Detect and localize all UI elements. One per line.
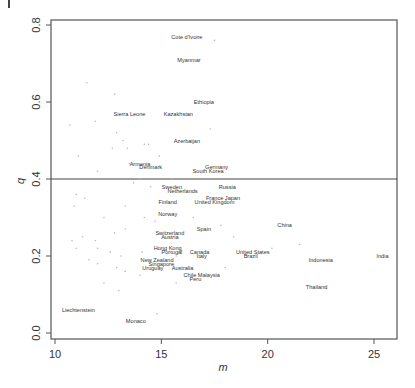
data-point xyxy=(175,255,177,257)
data-point xyxy=(73,205,75,207)
data-point xyxy=(84,197,86,199)
data-point xyxy=(124,228,126,230)
data-point xyxy=(122,140,124,142)
data-point xyxy=(133,182,135,184)
y-tick-label: 0.4 xyxy=(30,171,42,186)
data-point xyxy=(144,144,146,146)
data-point xyxy=(171,178,173,180)
data-point xyxy=(75,194,77,196)
data-point xyxy=(109,251,111,253)
point-label: Sierra Leone xyxy=(113,111,145,117)
y-tick-label: 0.8 xyxy=(30,17,42,32)
data-point xyxy=(139,178,141,180)
data-point xyxy=(150,186,152,188)
point-label: Indonesia xyxy=(309,257,334,263)
point-label: Peru xyxy=(189,276,201,282)
data-point xyxy=(114,232,116,234)
point-label: South Korea xyxy=(193,168,225,174)
scatter-plot: Cote d'IvoireMyanmarEthiopiaSierra Leone… xyxy=(0,0,415,388)
point-label: Netherlands xyxy=(168,188,198,194)
y-tick-label: 0.2 xyxy=(30,248,42,263)
point-label: Monaco xyxy=(126,318,146,324)
data-point xyxy=(95,240,97,242)
point-label: Norway xyxy=(158,211,177,217)
y-tick-label: 0.6 xyxy=(30,94,42,109)
y-axis-label: q xyxy=(14,177,26,184)
point-label: Russia xyxy=(219,184,237,190)
data-point xyxy=(214,40,216,42)
point-label: Azerbaijan xyxy=(174,138,200,144)
point-label: Denmark xyxy=(139,164,162,170)
data-point xyxy=(158,155,160,157)
data-point xyxy=(233,236,235,238)
data-point xyxy=(299,244,301,246)
x-tick-label: 25 xyxy=(368,348,380,360)
data-point xyxy=(71,240,73,242)
data-point xyxy=(86,82,88,84)
x-axis-label: m xyxy=(218,361,227,373)
data-point xyxy=(120,255,122,257)
data-point xyxy=(141,251,143,253)
point-label: Brazil xyxy=(244,253,258,259)
point-label: Australia xyxy=(172,265,195,271)
y-tick-label: 0.0 xyxy=(30,325,42,340)
data-point xyxy=(124,271,126,273)
point-label: Finland xyxy=(159,199,177,205)
data-point xyxy=(97,263,99,265)
data-point xyxy=(78,155,80,157)
point-label: Thailand xyxy=(306,284,327,290)
data-point xyxy=(116,132,118,134)
data-point xyxy=(127,147,129,149)
data-point xyxy=(97,171,99,173)
point-label: Liechtenstein xyxy=(62,307,95,313)
point-label: China xyxy=(277,222,293,228)
data-point xyxy=(224,267,226,269)
data-point xyxy=(114,94,116,96)
point-label: United Kingdom xyxy=(195,199,235,205)
data-point xyxy=(144,217,146,219)
data-point xyxy=(69,124,71,126)
point-label: Myanmar xyxy=(177,57,200,63)
data-point xyxy=(209,128,211,130)
data-point xyxy=(75,248,77,250)
point-label: Spain xyxy=(197,226,211,232)
data-point xyxy=(124,205,126,207)
point-label: Kazakhstan xyxy=(164,111,193,117)
x-tick-label: 20 xyxy=(262,348,274,360)
x-tick-label: 10 xyxy=(49,348,61,360)
data-point xyxy=(103,217,105,219)
data-point xyxy=(82,236,84,238)
data-point xyxy=(97,248,99,250)
data-point xyxy=(95,120,97,122)
point-label: Cote d'Ivoire xyxy=(171,34,202,40)
point-label: Uruguay xyxy=(142,265,163,271)
point-label: India xyxy=(376,253,389,259)
y-axis: 0.00.20.40.60.8 xyxy=(30,17,51,340)
data-point xyxy=(154,221,156,223)
data-point xyxy=(175,282,177,284)
data-point xyxy=(112,147,114,149)
point-label: Ethiopia xyxy=(194,99,215,105)
data-point xyxy=(156,313,158,315)
data-point xyxy=(118,290,120,292)
x-tick-label: 15 xyxy=(155,348,167,360)
data-point xyxy=(271,248,273,250)
data-point xyxy=(139,274,141,276)
point-label: Portugal xyxy=(162,249,183,255)
point-label: Austria xyxy=(161,234,179,240)
data-point xyxy=(88,259,90,261)
data-point xyxy=(220,224,222,226)
data-point xyxy=(148,144,150,146)
point-label: Italy xyxy=(197,253,207,259)
x-axis: 10152025 xyxy=(49,339,380,360)
data-point xyxy=(103,282,105,284)
data-point xyxy=(192,217,194,219)
data-point xyxy=(116,267,118,269)
